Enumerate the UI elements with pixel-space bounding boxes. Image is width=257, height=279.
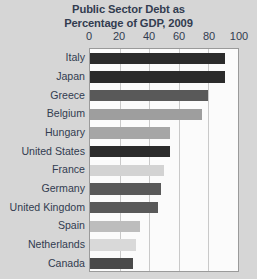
category-label: Germany — [0, 182, 85, 194]
bar-rows — [90, 49, 238, 271]
bar — [90, 239, 136, 250]
plot-area — [89, 48, 239, 272]
bar-row — [90, 68, 238, 87]
category-label: Greece — [0, 89, 85, 101]
bar — [90, 53, 225, 64]
x-tick-label: 100 — [230, 30, 248, 42]
x-tick-label: 40 — [143, 30, 155, 42]
bar-row — [90, 254, 238, 273]
y-axis-category-labels: ItalyJapanGreeceBelgiumHungaryUnited Sta… — [0, 48, 85, 272]
category-label: Japan — [0, 70, 85, 82]
bar-row — [90, 124, 238, 143]
bar-row — [90, 86, 238, 105]
bar-row — [90, 180, 238, 199]
x-tick-label: 20 — [113, 30, 125, 42]
bar — [90, 221, 140, 232]
bar-row — [90, 198, 238, 217]
category-label: Belgium — [0, 107, 85, 119]
bar-row — [90, 49, 238, 68]
bar-row — [90, 142, 238, 161]
category-label: Canada — [0, 257, 85, 269]
category-label: United Kingdom — [0, 201, 85, 213]
bar — [90, 202, 158, 213]
category-label: Hungary — [0, 126, 85, 138]
x-tick-label: 0 — [86, 30, 92, 42]
chart-figure: Public Sector Debt as Percentage of GDP,… — [0, 0, 257, 279]
category-label: Spain — [0, 219, 85, 231]
bar — [90, 183, 161, 194]
bar — [90, 71, 225, 82]
x-axis-tick-labels: 020406080100 — [89, 30, 239, 45]
category-label: Italy — [0, 51, 85, 63]
bar-row — [90, 236, 238, 255]
bar — [90, 146, 170, 157]
bar — [90, 127, 170, 138]
bar — [90, 109, 202, 120]
chart-title-line-2: Percentage of GDP, 2009 — [0, 17, 257, 31]
bar — [90, 258, 133, 269]
category-label: Netherlands — [0, 238, 85, 250]
bar-row — [90, 161, 238, 180]
x-tick-label: 80 — [203, 30, 215, 42]
category-label: United States — [0, 145, 85, 157]
chart-title: Public Sector Debt as Percentage of GDP,… — [0, 3, 257, 30]
x-tick-label: 60 — [173, 30, 185, 42]
category-label: France — [0, 163, 85, 175]
bar-row — [90, 217, 238, 236]
bar-row — [90, 105, 238, 124]
bar — [90, 90, 208, 101]
bar — [90, 165, 164, 176]
chart-title-line-1: Public Sector Debt as — [0, 3, 257, 17]
